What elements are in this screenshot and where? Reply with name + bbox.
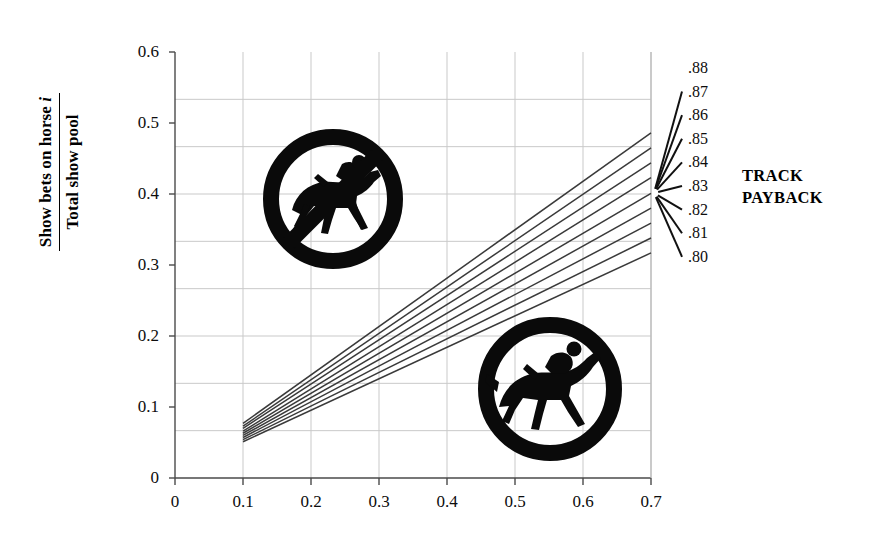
x-tick-label: 0 (145, 493, 205, 510)
legend-leader-lines (655, 92, 682, 257)
leader-line-83 (658, 186, 682, 192)
x-tick-label: 0.4 (417, 493, 477, 510)
series-label-84: .84 (688, 154, 708, 170)
series-label-82: .82 (688, 202, 708, 218)
series-label-83: .83 (688, 178, 708, 194)
x-tick-label: 0.1 (213, 493, 273, 510)
leader-line-87 (655, 92, 682, 189)
x-tick-label: 0.6 (553, 493, 613, 510)
chart-figure: Show bets on horse i Total show pool 00.… (0, 0, 874, 559)
series-label-81: .81 (688, 225, 708, 241)
y-tick-label: 0 (105, 469, 159, 486)
series-label-87: .87 (688, 84, 708, 100)
horizontal-gridlines (175, 99, 651, 430)
x-tick-label: 0.3 (349, 493, 409, 510)
legend-title-line1: TRACK (742, 165, 823, 187)
x-tick-label: 0.7 (621, 493, 681, 510)
series-label-86: .86 (688, 107, 708, 123)
x-axis-ticks (175, 478, 651, 485)
legend-title-line2: PAYBACK (742, 187, 823, 209)
y-tick-label: 0.5 (105, 114, 159, 131)
legend-title: TRACK PAYBACK (742, 165, 823, 210)
y-tick-label: 0.1 (105, 398, 159, 415)
y-tick-label: 0.4 (105, 185, 159, 202)
x-tick-label: 0.5 (485, 493, 545, 510)
series-label-80: .80 (688, 249, 708, 265)
y-tick-label: 0.2 (105, 327, 159, 344)
leader-line-85 (656, 139, 682, 189)
y-tick-label: 0.6 (105, 43, 159, 60)
x-tick-label: 0.2 (281, 493, 341, 510)
y-tick-label: 0.3 (105, 256, 159, 273)
y-axis-ticks (169, 52, 175, 478)
series-label-88: .88 (688, 60, 708, 76)
series-label-85: .85 (688, 131, 708, 147)
